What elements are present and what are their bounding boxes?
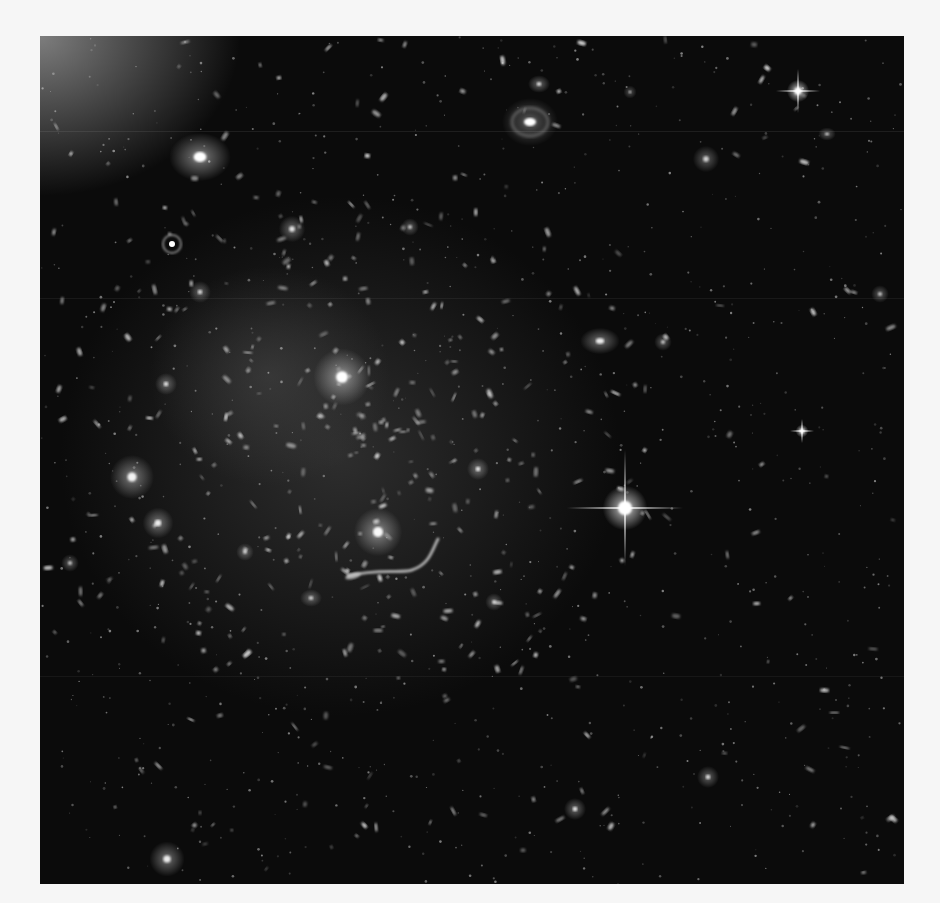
faint-source bbox=[680, 52, 683, 55]
faint-source bbox=[482, 385, 484, 387]
galaxy bbox=[726, 551, 729, 559]
faint-source bbox=[817, 104, 819, 106]
faint-source bbox=[67, 640, 70, 643]
faint-source bbox=[393, 697, 395, 699]
faint-source bbox=[405, 398, 406, 399]
faint-source bbox=[871, 448, 873, 450]
galaxy bbox=[732, 152, 740, 158]
faint-source bbox=[163, 496, 165, 498]
bright-galaxy-core bbox=[661, 340, 665, 344]
faint-source bbox=[350, 699, 353, 702]
faint-source bbox=[124, 149, 126, 151]
faint-source bbox=[447, 246, 449, 248]
faint-source bbox=[393, 400, 394, 401]
faint-source bbox=[662, 590, 664, 592]
faint-source bbox=[449, 346, 451, 348]
faint-source bbox=[85, 531, 86, 532]
faint-source bbox=[65, 459, 67, 461]
faint-source bbox=[453, 444, 454, 445]
faint-source bbox=[436, 94, 438, 96]
faint-source bbox=[580, 851, 581, 852]
faint-source bbox=[672, 86, 674, 88]
faint-source bbox=[574, 166, 575, 167]
faint-source bbox=[753, 322, 755, 324]
faint-source bbox=[113, 432, 116, 435]
faint-source bbox=[215, 600, 217, 602]
faint-source bbox=[58, 267, 60, 269]
faint-source bbox=[292, 211, 293, 212]
faint-source bbox=[757, 218, 760, 221]
faint-source bbox=[867, 97, 870, 100]
faint-source bbox=[574, 182, 576, 184]
galaxy bbox=[199, 811, 202, 815]
faint-source bbox=[723, 285, 725, 287]
faint-source bbox=[279, 140, 281, 142]
faint-source bbox=[464, 593, 466, 595]
faint-source bbox=[714, 704, 717, 707]
faint-source bbox=[878, 583, 880, 585]
faint-source bbox=[116, 606, 119, 609]
faint-source bbox=[173, 368, 175, 370]
faint-source bbox=[856, 186, 858, 188]
galaxy bbox=[402, 41, 407, 48]
faint-source bbox=[725, 198, 727, 200]
faint-source bbox=[634, 730, 635, 731]
faint-source bbox=[477, 254, 480, 257]
faint-source bbox=[243, 772, 244, 773]
faint-source bbox=[868, 140, 870, 142]
faint-source bbox=[445, 603, 447, 605]
faint-source bbox=[583, 430, 585, 432]
faint-source bbox=[58, 132, 59, 133]
faint-source bbox=[722, 750, 724, 752]
faint-source bbox=[318, 763, 320, 765]
faint-source bbox=[502, 147, 504, 149]
faint-source bbox=[503, 366, 506, 369]
faint-source bbox=[534, 623, 535, 624]
galaxy bbox=[796, 724, 805, 733]
faint-source bbox=[100, 535, 103, 538]
faint-source bbox=[715, 67, 717, 69]
galaxy bbox=[77, 599, 83, 606]
faint-source bbox=[517, 57, 519, 59]
faint-source bbox=[71, 699, 72, 700]
bright-galaxy-core bbox=[596, 338, 604, 343]
faint-source bbox=[257, 676, 260, 679]
faint-source bbox=[629, 680, 632, 683]
faint-source bbox=[824, 566, 825, 567]
faint-source bbox=[90, 781, 91, 782]
faint-source bbox=[257, 546, 258, 547]
faint-source bbox=[650, 387, 651, 388]
faint-source bbox=[823, 313, 824, 314]
faint-source bbox=[186, 258, 187, 259]
galaxy bbox=[609, 306, 615, 312]
faint-source bbox=[85, 829, 87, 831]
faint-source bbox=[822, 552, 823, 553]
faint-source bbox=[490, 78, 492, 80]
faint-source bbox=[90, 49, 92, 51]
faint-source bbox=[263, 280, 264, 281]
faint-source bbox=[423, 81, 426, 84]
faint-source bbox=[691, 806, 693, 808]
faint-source bbox=[188, 545, 191, 548]
faint-source bbox=[92, 674, 93, 675]
galaxy bbox=[154, 762, 163, 771]
faint-source bbox=[862, 372, 864, 374]
faint-source bbox=[731, 303, 733, 305]
galaxy bbox=[799, 158, 809, 165]
faint-source bbox=[814, 216, 817, 219]
faint-source bbox=[54, 462, 56, 464]
faint-source bbox=[461, 845, 462, 846]
galaxy bbox=[632, 382, 637, 388]
faint-source bbox=[249, 386, 252, 389]
faint-source bbox=[392, 199, 394, 201]
faint-source bbox=[262, 732, 263, 733]
faint-source bbox=[506, 449, 508, 451]
galaxy bbox=[330, 845, 333, 849]
star-core bbox=[795, 88, 802, 95]
faint-source bbox=[858, 767, 859, 768]
faint-source bbox=[315, 134, 317, 136]
faint-source bbox=[558, 192, 560, 194]
galaxy bbox=[191, 210, 196, 217]
faint-source bbox=[451, 336, 453, 338]
faint-source bbox=[419, 249, 421, 251]
